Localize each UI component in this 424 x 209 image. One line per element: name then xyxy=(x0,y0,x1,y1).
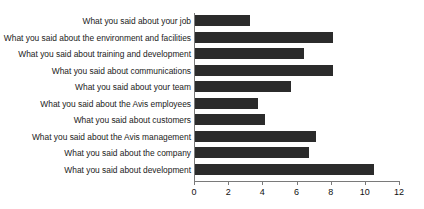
category-label: What you said about training and develop… xyxy=(18,49,191,60)
category-label: What you said about communications xyxy=(52,66,191,77)
category-label: What you said about your team xyxy=(75,82,191,93)
category-labels-group: What you said about your jobWhat you sai… xyxy=(0,0,424,209)
category-label: What you said about your job xyxy=(83,16,191,27)
category-label: What you said about customers xyxy=(74,115,191,126)
category-label: What you said about the company xyxy=(64,148,191,159)
category-label: What you said about development xyxy=(64,165,191,176)
category-label: What you said about the Avis management xyxy=(32,132,191,143)
plot-area: 024681012 What you said about your jobWh… xyxy=(0,0,424,209)
bar-chart: 024681012 What you said about your jobWh… xyxy=(0,0,424,209)
category-label: What you said about the Avis employees xyxy=(40,99,191,110)
category-label: What you said about the environment and … xyxy=(4,33,191,44)
